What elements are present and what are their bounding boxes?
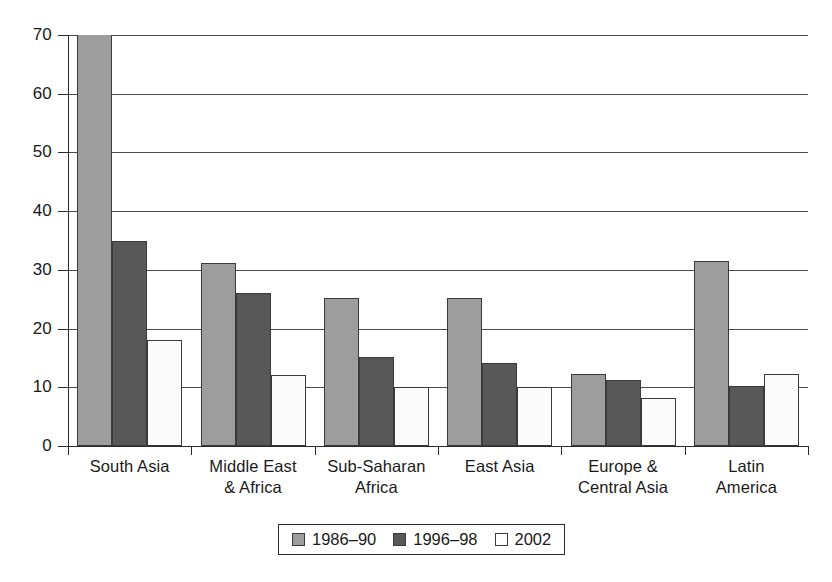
x-axis-tick: [685, 446, 686, 455]
chart-legend: 1986–90 1996–98 2002: [278, 524, 565, 555]
x-axis-category-label: Europe &Central Asia: [561, 456, 684, 498]
x-axis-line: [68, 446, 808, 447]
legend-item: 2002: [495, 530, 552, 548]
category-label-line: South Asia: [90, 457, 170, 475]
category-label-line: Africa: [315, 477, 438, 498]
legend-item: 1986–90: [292, 530, 376, 548]
legend-swatch-icon: [292, 533, 305, 546]
bar: [694, 261, 729, 446]
category-label-line: East Asia: [465, 457, 535, 475]
bar: [324, 298, 359, 446]
legend-item: 1996–98: [393, 530, 477, 548]
category-label-line: Europe &: [588, 457, 658, 475]
bar: [77, 35, 112, 446]
x-axis-category-label: East Asia: [438, 456, 561, 477]
x-axis-tick: [438, 446, 439, 455]
bar: [271, 375, 306, 446]
category-label-line: Central Asia: [561, 477, 684, 498]
x-axis-category-label: LatinAmerica: [685, 456, 808, 498]
legend-swatch-icon: [495, 533, 508, 546]
legend-label: 1996–98: [413, 530, 477, 548]
bar: [394, 387, 429, 446]
x-axis-tick: [561, 446, 562, 455]
x-axis-category-label: South Asia: [68, 456, 191, 477]
bar: [447, 298, 482, 446]
bar: [112, 241, 147, 447]
bar: [641, 398, 676, 446]
bar: [236, 293, 271, 446]
bar: [201, 263, 236, 446]
x-axis-tick: [315, 446, 316, 455]
x-axis-category-label: Sub-SaharanAfrica: [315, 456, 438, 498]
x-axis-category-label: Middle East& Africa: [191, 456, 314, 498]
bar: [764, 374, 799, 446]
x-axis-tick: [68, 446, 69, 455]
bar: [359, 357, 394, 446]
legend-label: 1986–90: [312, 530, 376, 548]
bar: [606, 380, 641, 446]
x-axis-tick: [191, 446, 192, 455]
bar: [517, 387, 552, 446]
category-label-line: Sub-Saharan: [327, 457, 425, 475]
bar: [571, 374, 606, 446]
bar-chart: 010203040506070 South AsiaMiddle East& A…: [0, 0, 832, 582]
category-label-line: Latin: [728, 457, 764, 475]
category-label-line: & Africa: [191, 477, 314, 498]
legend-swatch-icon: [393, 533, 406, 546]
category-label-line: Middle East: [209, 457, 296, 475]
bar: [729, 386, 764, 446]
bar: [147, 340, 182, 446]
x-axis-tick: [808, 446, 809, 455]
legend-label: 2002: [515, 530, 552, 548]
bar: [482, 363, 517, 446]
category-label-line: America: [685, 477, 808, 498]
